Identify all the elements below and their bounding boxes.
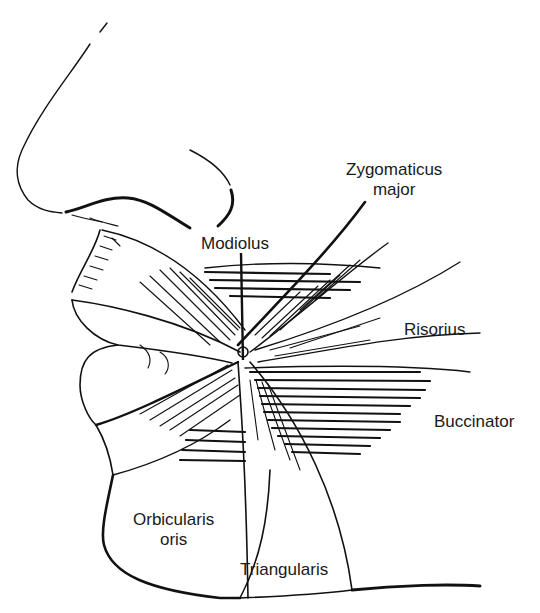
lips-outline xyxy=(72,300,240,475)
label-orbicularis-oris: Orbicularis oris xyxy=(133,510,214,550)
label-line: Modiolus xyxy=(201,234,269,254)
label-zygomaticus-major: Zygomaticus major xyxy=(346,160,442,200)
label-triangularis: Triangularis xyxy=(240,560,328,580)
nose-outline xyxy=(17,23,233,228)
zygomaticus-major-muscle xyxy=(238,202,388,352)
facial-muscle-illustration xyxy=(0,0,540,613)
risorius-muscle xyxy=(255,262,480,362)
label-line: Orbicularis xyxy=(133,510,214,530)
modiolus-pointer-line xyxy=(241,253,243,360)
label-modiolus: Modiolus xyxy=(201,234,269,254)
label-line: Buccinator xyxy=(434,412,514,432)
label-line: major xyxy=(346,180,442,200)
label-line: Risorius xyxy=(404,320,465,340)
label-line: Triangularis xyxy=(240,560,328,580)
label-risorius: Risorius xyxy=(404,320,465,340)
label-line: Zygomaticus xyxy=(346,160,442,180)
label-buccinator: Buccinator xyxy=(434,412,514,432)
anatomy-diagram: Zygomaticus major Modiolus Risorius Bucc… xyxy=(0,0,540,613)
label-line: oris xyxy=(133,530,214,550)
